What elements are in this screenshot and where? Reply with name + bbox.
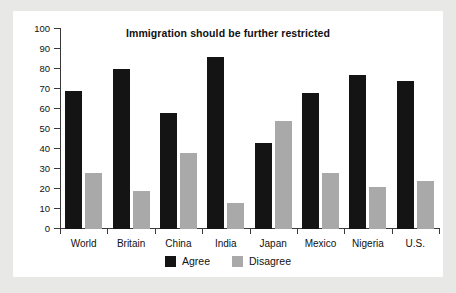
x-axis-tick (297, 228, 298, 234)
bar-agree-us (397, 81, 414, 229)
legend-label: Agree (182, 255, 210, 267)
bar-agree-nigeria (349, 75, 366, 229)
y-axis-tick-label: 80 (13, 63, 50, 74)
y-axis-tick (54, 188, 61, 189)
category-label-nigeria: Nigeria (344, 238, 391, 249)
y-axis-tick (54, 88, 61, 89)
bar-agree-world (65, 91, 82, 229)
y-axis-tick (54, 68, 61, 69)
y-axis-tick-label: 50 (13, 123, 50, 134)
bar-disagree-us (417, 181, 434, 229)
chart-card: Immigration should be further restricted… (13, 11, 443, 277)
x-axis-tick (60, 228, 61, 234)
chart-legend: AgreeDisagree (13, 255, 443, 267)
x-axis-tick (392, 228, 393, 234)
bar-disagree-britain (133, 191, 150, 229)
category-label-world: World (60, 238, 107, 249)
x-axis-tick (439, 228, 440, 234)
y-axis-tick (54, 128, 61, 129)
category-label-us: U.S. (392, 238, 439, 249)
y-axis-tick-label: 90 (13, 43, 50, 54)
x-axis-tick (250, 228, 251, 234)
y-axis-tick (54, 28, 61, 29)
x-axis-tick (202, 228, 203, 234)
category-label-india: India (202, 238, 249, 249)
y-axis-tick (54, 148, 61, 149)
legend-item-agree[interactable]: Agree (165, 255, 210, 267)
x-axis-tick (155, 228, 156, 234)
y-axis-tick-label: 20 (13, 183, 50, 194)
x-axis-tick (344, 228, 345, 234)
bar-agree-britain (113, 69, 130, 229)
bar-disagree-mexico (322, 173, 339, 229)
category-label-mexico: Mexico (297, 238, 344, 249)
category-label-china: China (155, 238, 202, 249)
bar-disagree-world (85, 173, 102, 229)
y-axis-tick (54, 108, 61, 109)
y-axis-tick (54, 48, 61, 49)
bar-disagree-china (180, 153, 197, 229)
y-axis-tick-label: 0 (13, 223, 50, 234)
y-axis-tick-label: 10 (13, 203, 50, 214)
y-axis-tick (54, 208, 61, 209)
bar-disagree-japan (275, 121, 292, 229)
x-axis-tick (107, 228, 108, 234)
y-axis-tick-label: 30 (13, 163, 50, 174)
legend-label: Disagree (249, 255, 291, 267)
category-label-japan: Japan (250, 238, 297, 249)
bar-disagree-nigeria (369, 187, 386, 229)
y-axis-tick-label: 100 (13, 23, 50, 34)
plot-area: 0102030405060708090100 WorldBritainChina… (13, 11, 443, 277)
y-axis-tick-label: 40 (13, 143, 50, 154)
bar-agree-india (207, 57, 224, 229)
bar-agree-mexico (302, 93, 319, 229)
bar-disagree-india (227, 203, 244, 229)
legend-item-disagree[interactable]: Disagree (232, 255, 291, 267)
y-axis-tick-label: 60 (13, 103, 50, 114)
bar-agree-china (160, 113, 177, 229)
y-axis-tick (54, 168, 61, 169)
category-label-britain: Britain (107, 238, 154, 249)
legend-swatch-icon (165, 256, 176, 267)
y-axis-tick-label: 70 (13, 83, 50, 94)
legend-swatch-icon (232, 256, 243, 267)
bar-agree-japan (255, 143, 272, 229)
